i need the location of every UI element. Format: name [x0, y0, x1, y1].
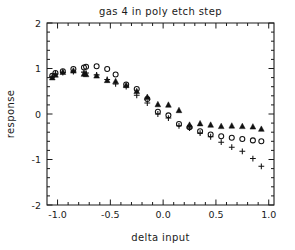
marker-circle	[219, 134, 224, 139]
series-triangle	[49, 68, 264, 132]
marker-triangle	[197, 120, 203, 125]
marker-circle	[259, 139, 264, 144]
marker-triangle	[166, 102, 172, 107]
x-tick-label: 0.0	[156, 209, 171, 220]
y-tick-label: -1	[32, 154, 41, 165]
marker-circle	[105, 66, 110, 71]
marker-triangle	[218, 123, 224, 128]
marker-triangle	[155, 101, 161, 106]
marker-plus	[229, 144, 235, 150]
series-plus	[49, 69, 264, 169]
chart-title: gas 4 in poly etch step	[99, 6, 222, 17]
y-axis-label: response	[5, 90, 16, 139]
marker-triangle	[229, 123, 235, 128]
marker-circle	[113, 72, 118, 77]
y-tick-label: 1	[35, 63, 41, 74]
marker-plus	[250, 156, 256, 162]
marker-triangle	[250, 124, 256, 129]
marker-plus	[258, 163, 264, 169]
marker-circle	[94, 64, 99, 69]
marker-circle	[229, 135, 234, 140]
marker-plus	[218, 139, 224, 145]
marker-triangle	[258, 126, 264, 131]
marker-circle	[240, 137, 245, 142]
y-tick-label: 2	[35, 18, 41, 29]
marker-triangle	[239, 123, 245, 128]
y-tick-label: 0	[35, 109, 41, 120]
x-tick-label: -0.5	[101, 209, 120, 220]
marker-triangle	[208, 122, 214, 127]
scatter-plot: -1.0-0.50.00.51.0-2-1012gas 4 in poly et…	[0, 0, 295, 250]
y-tick-label: -2	[32, 200, 41, 211]
chart-figure: -1.0-0.50.00.51.0-2-1012gas 4 in poly et…	[0, 0, 295, 250]
marker-circle	[250, 138, 255, 143]
marker-plus	[239, 148, 245, 154]
x-tick-label: 1.0	[261, 209, 276, 220]
data-points	[49, 64, 264, 170]
marker-triangle	[176, 107, 182, 112]
x-tick-label: 0.5	[208, 209, 223, 220]
x-axis-label: delta input	[131, 232, 190, 243]
x-tick-label: -1.0	[48, 209, 67, 220]
